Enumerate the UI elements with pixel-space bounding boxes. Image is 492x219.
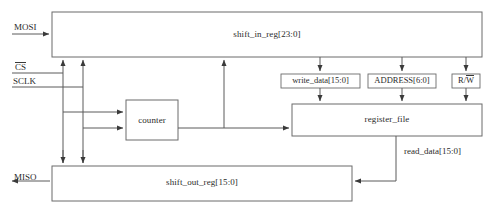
signal-label-miso: MISO xyxy=(14,172,37,182)
signal-label-mosi: MOSI xyxy=(14,22,37,32)
tap-label-rw-prefix: R/ xyxy=(458,75,466,85)
block-label-register-file: register_file xyxy=(292,114,482,124)
tap-label-rw: R/W xyxy=(452,75,480,86)
block-label-shift-out-reg: shift_out_reg[15:0] xyxy=(52,177,352,187)
tap-label-address: ADDRESS[6:0] xyxy=(368,75,436,86)
signal-label-read-data: read_data[15:0] xyxy=(404,146,461,156)
block-label-counter: counter xyxy=(126,115,178,125)
signal-label-cs: CS xyxy=(15,62,26,72)
spi-block-diagram: shift_in_reg[23:0] counter register_file… xyxy=(0,0,492,219)
wires xyxy=(12,34,466,181)
signal-label-sclk: SCLK xyxy=(13,76,36,86)
block-label-shift-in-reg: shift_in_reg[23:0] xyxy=(52,29,482,39)
tap-label-rw-overlined: W xyxy=(466,75,474,85)
block-outlines xyxy=(52,12,482,201)
signal-label-cs-text: CS xyxy=(15,62,26,72)
tap-label-write-data: write_data[15:0] xyxy=(281,75,360,86)
